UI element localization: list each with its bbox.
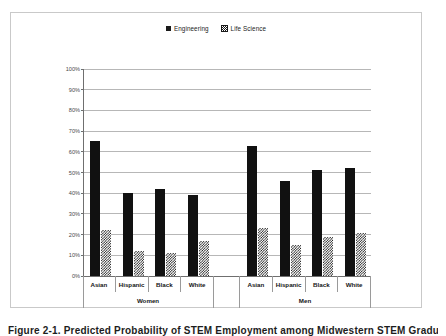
group-label-row: WomenMen xyxy=(83,292,371,308)
y-axis-tick-label: 70% xyxy=(69,128,80,134)
y-axis-tick-label: 80% xyxy=(69,107,80,113)
bar-engineering xyxy=(247,146,257,276)
bar-engineering xyxy=(90,141,100,276)
x-axis-category-label: Black xyxy=(306,276,339,292)
x-axis-category-label: Hispanic xyxy=(116,276,149,292)
x-axis-category-label: Asian xyxy=(83,276,116,292)
bar-engineering xyxy=(345,168,355,276)
x-axis-category-label: Hispanic xyxy=(273,276,306,292)
bar-life-science xyxy=(323,237,333,276)
x-axis-category-label: Asian xyxy=(240,276,273,292)
x-axis-category-label: White xyxy=(181,276,214,292)
y-axis-tick-label: 40% xyxy=(69,190,80,196)
bar-life-science xyxy=(258,228,268,276)
plot-area: 0%10%20%30%40%50%60%70%80%90%100% xyxy=(83,69,371,276)
checkered-square-icon xyxy=(221,25,228,32)
category-label-row: AsianHispanicBlackWhiteAsianHispanicBlac… xyxy=(83,276,371,292)
bar-life-science xyxy=(166,253,176,276)
bar-life-science xyxy=(291,245,301,276)
figure-frame: Engineering Life Science 0%10%20%30%40%5… xyxy=(10,12,422,308)
chart-legend: Engineering Life Science xyxy=(11,25,421,32)
bar-life-science xyxy=(199,241,209,276)
legend-entry-life-science[interactable]: Life Science xyxy=(221,25,267,32)
y-axis-tick-label: 100% xyxy=(66,66,80,72)
figure-caption: Figure 2-1. Predicted Probability of STE… xyxy=(8,325,438,336)
y-axis-tick-label: 10% xyxy=(69,252,80,258)
bar-life-science xyxy=(101,230,111,276)
x-axis-spacer-cell xyxy=(214,276,240,292)
y-axis-tick-label: 60% xyxy=(69,149,80,155)
bar-engineering xyxy=(312,170,322,276)
x-axis-group-label: Women xyxy=(83,292,214,308)
bar-engineering xyxy=(280,181,290,276)
legend-label-engineering: Engineering xyxy=(174,25,209,32)
y-axis-tick-label: 30% xyxy=(69,211,80,217)
y-axis-tick-label: 50% xyxy=(69,170,80,176)
x-axis-category-label: White xyxy=(338,276,371,292)
bar-engineering xyxy=(123,193,133,276)
solid-square-icon xyxy=(166,26,171,31)
y-axis-tick-label: 0% xyxy=(72,273,80,279)
bar-life-science xyxy=(134,251,144,276)
bars-layer xyxy=(84,69,371,276)
category-axis: AsianHispanicBlackWhiteAsianHispanicBlac… xyxy=(83,276,371,308)
bar-life-science xyxy=(356,233,366,276)
legend-entry-engineering[interactable]: Engineering xyxy=(166,25,209,32)
y-axis-tick-label: 20% xyxy=(69,232,80,238)
bar-engineering xyxy=(155,189,165,276)
y-axis-tick-label: 90% xyxy=(69,87,80,93)
legend-label-life-science: Life Science xyxy=(231,25,267,32)
x-axis-group-label: Men xyxy=(240,292,371,308)
x-axis-group-spacer-cell xyxy=(214,292,240,308)
bar-engineering xyxy=(188,195,198,276)
x-axis-category-label: Black xyxy=(149,276,182,292)
